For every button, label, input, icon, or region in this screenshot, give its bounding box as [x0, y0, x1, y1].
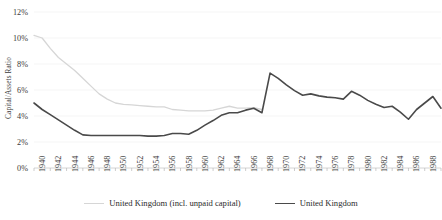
- x-axis-tick-label: 1942: [54, 156, 63, 172]
- x-axis-tick-label: 1940: [38, 156, 47, 172]
- x-axis-tick-label: 1982: [380, 156, 389, 172]
- y-axis-tick-label: 2%: [2, 138, 28, 147]
- x-axis-tick-label: 1970: [282, 156, 291, 172]
- y-axis-tick-label: 12%: [2, 8, 28, 17]
- x-axis-tick-label: 1950: [119, 156, 128, 172]
- x-axis-tick-label: 1962: [217, 156, 226, 172]
- x-axis-tick-label: 1972: [298, 156, 307, 172]
- x-axis-tick-label: 1988: [429, 156, 438, 172]
- y-axis-tick-label: 10%: [2, 34, 28, 43]
- y-axis-tick-label: 4%: [2, 112, 28, 121]
- x-axis-tick-label: 1954: [152, 156, 161, 172]
- legend-swatch-icon-light: [84, 203, 104, 204]
- legend-swatch-icon-dark: [275, 203, 295, 204]
- x-axis-tick-label: 1964: [233, 156, 242, 172]
- legend: United Kingdom (incl. unpaid capital) Un…: [0, 198, 442, 208]
- x-axis-tick-label: 1968: [266, 156, 275, 172]
- y-axis-tick-label: 6%: [2, 86, 28, 95]
- series-lines: [34, 35, 441, 136]
- y-axis-tick-label: 8%: [2, 60, 28, 69]
- x-axis-tick-label: 1944: [71, 156, 80, 172]
- legend-entry-uk-incl-unpaid-capital: United Kingdom (incl. unpaid capital): [84, 198, 241, 208]
- x-axis-tick-label: 1978: [347, 156, 356, 172]
- plot-area: [0, 0, 442, 220]
- capital-assets-ratio-chart: Capital/Assets Ratio 0%2%4%6%8%10%12% 19…: [0, 0, 442, 220]
- x-axis-tick-label: 1984: [396, 156, 405, 172]
- x-axis-tick-label: 1966: [250, 156, 259, 172]
- x-axis-tick-label: 1946: [87, 156, 96, 172]
- gridlines: [34, 12, 441, 171]
- x-axis-tick-label: 1952: [136, 156, 145, 172]
- series-line-1: [34, 73, 441, 136]
- x-axis-tick-label: 1980: [364, 156, 373, 172]
- x-axis-tick-label: 1948: [103, 156, 112, 172]
- legend-entry-uk: United Kingdom: [275, 198, 358, 208]
- legend-label-uk: United Kingdom: [300, 198, 358, 208]
- x-axis-tick-label: 1976: [331, 156, 340, 172]
- x-axis-tick-label: 1974: [315, 156, 324, 172]
- x-axis-tick-label: 1986: [412, 156, 421, 172]
- x-axis-tick-label: 1956: [168, 156, 177, 172]
- x-axis-tick-label: 1960: [201, 156, 210, 172]
- x-axis-tick-label: 1958: [185, 156, 194, 172]
- legend-label-uk-incl-unpaid-capital: United Kingdom (incl. unpaid capital): [109, 198, 241, 208]
- y-axis-tick-label: 0%: [2, 164, 28, 173]
- series-line-0: [34, 35, 262, 110]
